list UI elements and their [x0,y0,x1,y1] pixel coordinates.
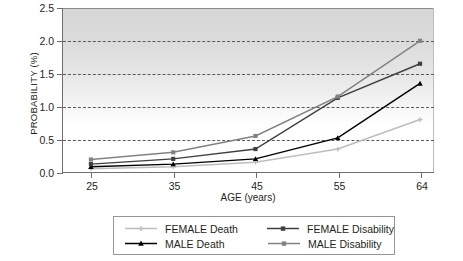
chart-legend: FEMALE DeathFEMALE DisabilityMALE DeathM… [113,216,395,255]
legend-label: MALE Disability [308,238,382,250]
data-point [418,39,422,43]
series-line [91,83,420,166]
legend-label: FEMALE Disability [307,223,394,235]
y-axis-title: PROBABILITY (%) [28,14,39,174]
data-point [89,157,93,161]
legend-item-male-disability[interactable]: MALE Disability [263,236,394,251]
data-point [171,150,175,154]
legend-item-male-death[interactable]: MALE Death [114,236,263,251]
y-tick-label: 2.5 [39,2,54,14]
x-tick-label: 45 [251,180,263,192]
legend-label: FEMALE Death [165,223,238,235]
series-male-disability [89,39,422,162]
x-axis-title: AGE (years) [62,192,434,203]
series-line [91,41,420,160]
x-tick-label: 55 [334,180,346,192]
x-tick-label: 64 [416,180,428,192]
legend-swatch-plus-icon [124,223,158,234]
legend-label: MALE Death [165,238,225,250]
x-tick: 64 [421,172,422,178]
y-tick: 0.0 [57,173,63,174]
y-tick-label: 2.0 [39,35,54,47]
y-tick-label: 0.5 [39,134,54,146]
x-tick-label: 35 [169,180,181,192]
series-female-disability [89,62,422,167]
data-point [335,147,340,152]
y-tick-label: 1.0 [39,101,54,113]
data-point [253,147,257,151]
legend-item-female-death[interactable]: FEMALE Death [114,221,262,236]
legend-row: FEMALE DeathFEMALE Disability [114,221,394,236]
data-point [418,117,423,122]
x-tick: 25 [91,172,92,178]
legend-swatch-square-icon [266,223,300,234]
data-point [253,134,257,138]
data-point [418,62,422,66]
data-point [417,81,422,86]
series-female-death [89,117,423,171]
legend-row: MALE DeathMALE Disability [114,236,394,251]
x-tick-label: 25 [86,180,98,192]
y-tick-label: 1.5 [39,68,54,80]
x-tick: 45 [256,172,257,178]
x-tick: 35 [174,172,175,178]
data-point [89,162,93,166]
data-series-layer [63,8,434,172]
x-tick: 55 [339,172,340,178]
legend-swatch-triangle-icon [124,238,158,249]
legend-item-female-disability[interactable]: FEMALE Disability [262,221,394,236]
legend-swatch-square-icon [267,238,301,249]
chart-figure: PROBABILITY (%) 0.00.51.01.52.02.5 25354… [0,0,463,261]
plot-area: 0.00.51.01.52.02.5 2535455564 [62,8,434,173]
data-point [336,94,340,98]
y-tick-label: 0.0 [39,167,54,179]
data-point [171,157,175,161]
